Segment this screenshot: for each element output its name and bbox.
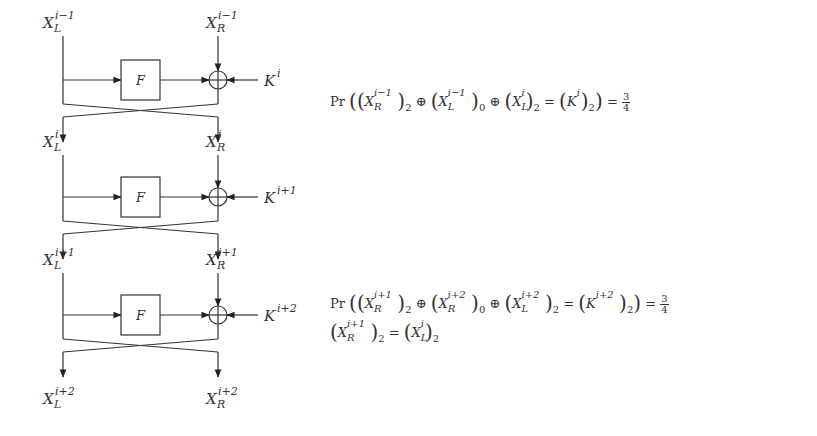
math-token: ((	[349, 89, 365, 113]
math-token: i	[522, 88, 525, 98]
math-token: ⊕	[489, 296, 500, 311]
math-token: i−1	[374, 88, 392, 98]
math-token: )	[471, 291, 479, 315]
round-2-key-label: Ki+1	[264, 191, 275, 206]
math-token: 4	[660, 305, 668, 315]
math-token: L	[522, 304, 529, 314]
math-token: i+2i+2	[596, 297, 619, 310]
math-token: ⊕	[416, 94, 427, 109]
math-token: (	[559, 89, 567, 113]
math-token: X	[365, 296, 374, 311]
math-token: )	[397, 291, 405, 315]
math-token: i+2	[448, 290, 466, 300]
math-token: 2	[534, 102, 540, 113]
math-token: )	[471, 89, 479, 113]
math-token: )	[425, 320, 433, 344]
math-token: (	[504, 89, 512, 113]
math-token: L	[448, 102, 455, 112]
equation-round-i-probability: Pr ((Xi−1Ri−1)2 ⊕ (Xi−1Li−1)0 ⊕ (XiLi)2 …	[330, 89, 630, 113]
math-token: 0	[479, 102, 485, 113]
math-token: X	[412, 325, 421, 340]
output-left-label: Xi+2L	[43, 392, 54, 407]
math-token: i+2	[522, 290, 540, 300]
feistel-diagram-figure: FFF Xi−1LXi−1RKiXiLXiRKi+1Xi+1LXi+1RKi+2…	[0, 0, 817, 436]
feistel-network-diagram: FFF	[0, 0, 817, 436]
round-2-left-input-label: XiL	[43, 135, 54, 150]
math-token: i+1Ri+1	[374, 297, 397, 310]
math-token: 2	[378, 333, 384, 344]
math-token: (	[404, 320, 412, 344]
math-token: 2	[553, 304, 559, 315]
round-3-left-input-label: Xi+1L	[43, 253, 54, 268]
math-token: R	[374, 102, 382, 112]
math-token: (	[578, 291, 586, 315]
math-token: )	[633, 291, 641, 315]
math-token: i+2	[596, 290, 614, 300]
math-token: =	[544, 94, 555, 109]
f-function-label: F	[135, 308, 146, 323]
round-1-key-label: Ki	[264, 74, 275, 89]
probability-fraction: 34	[660, 294, 668, 315]
round-2-right-input-label: XiR	[206, 135, 217, 150]
math-token: i	[421, 319, 424, 329]
math-token: 2	[433, 333, 439, 344]
f-function-label: F	[135, 190, 146, 205]
math-token: 0	[479, 304, 485, 315]
math-token: 4	[622, 103, 630, 113]
equation-bit-equality: (Xi+1Ri+1)2 = (XiLi)2	[330, 320, 439, 340]
math-token: )	[526, 89, 534, 113]
math-token: (	[431, 291, 439, 315]
math-token: ((	[349, 291, 365, 315]
math-token: i−1	[448, 88, 466, 98]
math-token: i−1Li−1	[448, 95, 471, 108]
math-token: X	[365, 94, 374, 109]
math-token: (	[431, 89, 439, 113]
math-token: =	[645, 296, 656, 311]
probability-fraction: 34	[622, 92, 630, 113]
pr-operator: Pr	[330, 296, 345, 311]
math-token: X	[439, 94, 448, 109]
math-token: )	[595, 89, 603, 113]
equation-round-i2-probability: Pr ((Xi+1Ri+1)2 ⊕ (Xi+2Ri+2)0 ⊕ (Xi+2Li+…	[330, 291, 669, 315]
math-token: )	[545, 291, 553, 315]
round-3-right-input-label: Xi+1R	[206, 253, 217, 268]
math-token: i+1Ri+1	[347, 326, 370, 339]
math-token: i−1Ri−1	[374, 95, 397, 108]
f-function-label: F	[135, 73, 146, 88]
math-token: =	[607, 94, 618, 109]
math-token: K	[586, 296, 596, 311]
math-token: X	[338, 325, 347, 340]
math-token: i+1	[347, 319, 365, 329]
math-token: R	[448, 304, 456, 314]
output-right-label: Xi+2R	[206, 392, 217, 407]
math-token: 2	[405, 304, 411, 315]
math-token: K	[567, 94, 577, 109]
math-token: (	[330, 320, 338, 344]
math-token: )	[619, 291, 627, 315]
math-token: =	[389, 325, 400, 340]
round-3-key-label: Ki+2	[264, 309, 275, 324]
math-token: 2	[405, 102, 411, 113]
math-token: R	[347, 333, 355, 343]
pr-operator: Pr	[330, 94, 345, 109]
math-token: i	[577, 88, 580, 98]
math-token: i+1	[374, 290, 392, 300]
math-token: )	[581, 89, 589, 113]
math-token: (	[504, 291, 512, 315]
math-token: i+2Li+2	[522, 297, 545, 310]
math-token: X	[512, 296, 521, 311]
math-token: X	[439, 296, 448, 311]
math-token: ⊕	[416, 296, 427, 311]
math-token: =	[563, 296, 574, 311]
round-1-left-input-label: Xi−1L	[43, 16, 54, 31]
math-token: ⊕	[489, 94, 500, 109]
math-token: X	[512, 94, 521, 109]
math-token: )	[397, 89, 405, 113]
math-token: i+2Ri+2	[448, 297, 471, 310]
math-token: R	[374, 304, 382, 314]
round-1-right-input-label: Xi−1R	[206, 16, 217, 31]
